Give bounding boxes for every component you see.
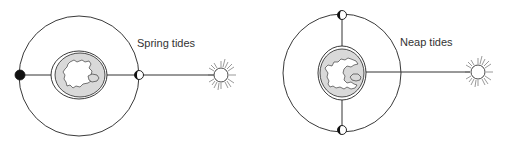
new-moon-icon xyxy=(15,70,25,80)
spring-tides-label: Spring tides xyxy=(137,37,195,49)
third-quarter-moon-icon xyxy=(338,126,347,135)
tides-diagram xyxy=(0,0,510,145)
first-quarter-moon-icon xyxy=(338,11,347,20)
full-moon-icon xyxy=(135,71,144,80)
neap-tides-label: Neap tides xyxy=(400,36,453,48)
earth-icon xyxy=(51,51,107,99)
spring-tides-diagram xyxy=(15,16,236,136)
neap-tides-diagram xyxy=(283,11,493,135)
earth-icon xyxy=(318,46,366,100)
